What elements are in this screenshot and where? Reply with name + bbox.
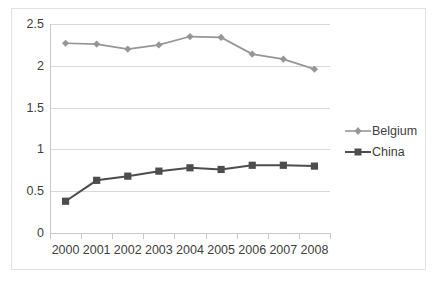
data-point-square [62, 198, 69, 205]
data-point-square [186, 164, 193, 171]
data-point-square [155, 168, 162, 175]
data-point-diamond [249, 50, 256, 57]
data-point-diamond [93, 40, 100, 47]
data-point-diamond [62, 40, 69, 47]
data-point-square [218, 166, 225, 173]
data-point-square [124, 173, 131, 180]
legend-item-china[interactable]: China [345, 141, 431, 162]
legend-label-china: China [371, 145, 405, 159]
series-belgium [62, 33, 318, 73]
series-china [62, 162, 318, 205]
series-line-belgium [66, 37, 315, 70]
legend-marker-square-icon [345, 145, 371, 159]
legend-label-belgium: Belgium [371, 124, 417, 138]
data-point-diamond [280, 56, 287, 63]
data-point-diamond [155, 41, 162, 48]
data-point-diamond [218, 34, 225, 41]
data-point-diamond [311, 66, 318, 73]
line-chart: 2.5 2 1.5 1 0.5 0 2000200120022003200420… [0, 0, 439, 285]
data-point-square [249, 162, 256, 169]
data-point-square [93, 177, 100, 184]
data-point-diamond [186, 33, 193, 40]
legend-item-belgium[interactable]: Belgium [345, 120, 431, 141]
legend-marker-diamond-icon [345, 124, 371, 138]
data-point-square [311, 163, 318, 170]
chart-legend: Belgium China [345, 120, 431, 162]
data-point-diamond [124, 45, 131, 52]
data-point-square [280, 162, 287, 169]
